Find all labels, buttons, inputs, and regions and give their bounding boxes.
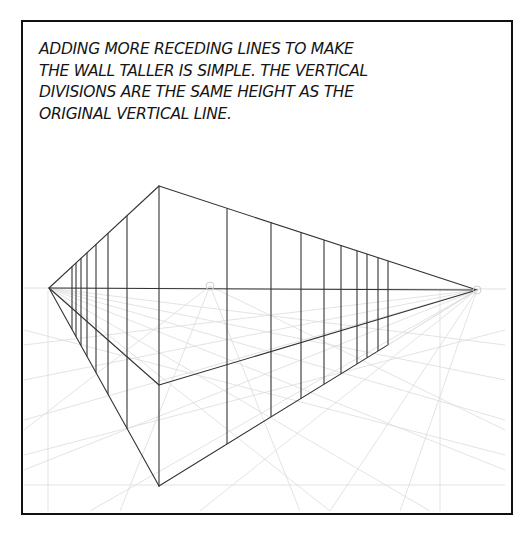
- right-middle-receding-line: [159, 290, 477, 385]
- construction-line: [49, 288, 330, 511]
- left-top-receding-line: [49, 186, 159, 288]
- construction-line: [24, 290, 477, 470]
- left-middle-receding-line: [49, 288, 159, 385]
- right-top-receding-line: [159, 186, 477, 290]
- construction-line: [24, 290, 477, 345]
- left-bottom-receding-line: [49, 288, 159, 486]
- right-bottom-construction: [388, 290, 477, 345]
- construction-line: [400, 290, 477, 511]
- construction-line: [24, 290, 477, 380]
- right-wall-verticals: [227, 208, 388, 444]
- construction-line: [90, 290, 477, 511]
- perspective-diagram: [0, 0, 530, 539]
- wall-outline: [49, 186, 477, 486]
- construction-line: [330, 290, 477, 511]
- construction-line: [120, 286, 210, 511]
- construction-line: [49, 288, 505, 345]
- left-wall-verticals: [72, 216, 127, 429]
